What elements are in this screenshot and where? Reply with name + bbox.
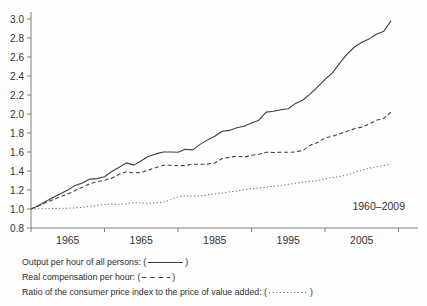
figure-page: 0.81.01.21.41.61.82.02.22.42.62.83.01965… — [0, 0, 427, 306]
legend-label: Ratio of the consumer price index to the… — [22, 287, 267, 297]
x-tick-label: 2005 — [350, 234, 374, 246]
series-line-dashed — [31, 112, 391, 209]
y-tick-label: 1.6 — [10, 147, 24, 158]
year-range-annotation: 1960–2009 — [352, 200, 405, 212]
chart-legend: Output per hour of all persons: ()Real c… — [22, 254, 313, 299]
chart-series — [31, 21, 391, 209]
y-tick-label: 2.4 — [10, 71, 24, 82]
legend-item: Real compensation per hour: () — [22, 269, 313, 284]
y-tick-label: 1.8 — [10, 128, 24, 139]
legend-line-sample-solid — [147, 258, 184, 266]
chart-svg: 0.81.01.21.41.61.82.02.22.42.62.83.01965… — [0, 0, 427, 252]
x-tick-label: 1985 — [203, 234, 227, 246]
legend-close-paren: ) — [185, 257, 188, 267]
y-tick-label: 3.0 — [10, 14, 24, 25]
y-tick-label: 0.8 — [10, 223, 24, 234]
legend-item: Ratio of the consumer price index to the… — [22, 284, 313, 299]
y-tick-label: 2.8 — [10, 33, 24, 44]
legend-line-sample-dotted — [268, 288, 309, 296]
series-line-dotted — [31, 164, 391, 209]
y-tick-label: 2.2 — [10, 90, 24, 101]
y-tick-label: 1.0 — [10, 204, 24, 215]
y-tick-label: 2.0 — [10, 109, 24, 120]
y-tick-label: 1.4 — [10, 166, 24, 177]
legend-close-paren: ) — [172, 272, 175, 282]
series-line-solid — [31, 21, 391, 209]
y-tick-label: 1.2 — [10, 185, 24, 196]
legend-label: Output per hour of all persons: ( — [22, 257, 146, 267]
legend-close-paren: ) — [310, 287, 313, 297]
legend-label: Real compensation per hour: ( — [22, 272, 140, 282]
legend-line-sample-dashed — [141, 273, 171, 281]
legend-item: Output per hour of all persons: () — [22, 254, 313, 269]
x-tick-label: 1965 — [130, 234, 154, 246]
y-tick-label: 2.6 — [10, 52, 24, 63]
x-tick-label: 1995 — [277, 234, 301, 246]
x-tick-label: 1965 — [56, 234, 80, 246]
